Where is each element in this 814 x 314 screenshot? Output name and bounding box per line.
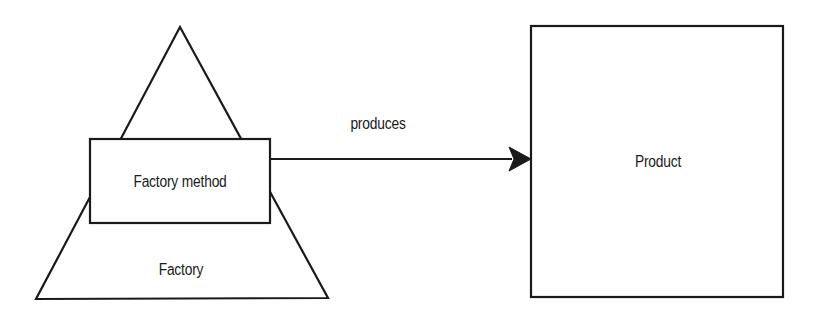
arrowhead-icon [509,147,531,171]
produces-edge-label: produces [350,115,405,133]
product-label: Product [635,153,681,171]
factory-method-label: Factory method [133,173,226,191]
factory-method-diagram: Factory method Factory produces Product [0,0,814,314]
factory-label: Factory [159,261,204,279]
diagram-shapes [0,0,814,314]
